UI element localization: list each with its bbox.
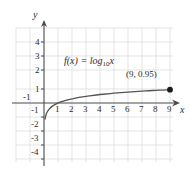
y-tick-label-2: 2 [35,66,40,75]
x-tick-label-9: 9 [167,105,172,114]
y-tick-label-neg3: -3 [31,134,39,143]
x-tick-label-1: 1 [55,105,60,114]
y-tick-label-neg1: -1 [31,106,39,115]
marked-point-dot [167,87,173,93]
x-tick-label-6: 6 [125,105,130,114]
y-axis-label: y [33,10,37,20]
x-tick-label-8: 8 [153,105,158,114]
x-tick-label-4: 4 [97,105,102,114]
function-equation-text: f(x) = log [64,55,102,66]
log-function-graph: y x 4 3 2 1 -1 -2 -3 -4 -1 1 2 3 4 5 6 7… [0,0,190,171]
x-axis-label: x [180,105,184,115]
graph-canvas [0,0,190,171]
x-tick-label-7: 7 [139,105,144,114]
x-tick-label-5: 5 [111,105,116,114]
y-tick-label-4: 4 [35,38,40,47]
function-equation-arg: x [109,55,113,66]
y-tick-label-neg4: -4 [31,148,39,157]
x-tick-label-3: 3 [83,105,88,114]
y-tick-label-1: 1 [35,85,40,94]
y-tick-label-neg2: -2 [31,120,39,129]
marked-point-label: (9, 0.95) [126,70,157,79]
y-tick-label-3: 3 [35,52,40,61]
x-tick-label-2: 2 [69,105,74,114]
log-curve-main [45,90,170,119]
function-equation: f(x) = log10x [64,56,114,68]
x-tick-label-neg1: -1 [23,93,31,102]
